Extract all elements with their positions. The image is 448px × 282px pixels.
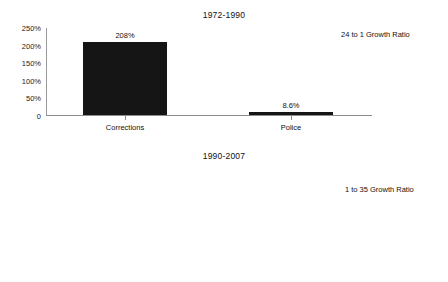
y-tick-label: 200% bbox=[22, 41, 41, 50]
y-tick-label: 0 bbox=[37, 112, 41, 121]
chart-1972-1990: 1972-1990 24 to 1 Growth Ratio 250% 200%… bbox=[0, 0, 448, 141]
bar-value-label: 8.6% bbox=[282, 101, 299, 110]
y-tick-label: 50% bbox=[26, 94, 41, 103]
bar-police bbox=[249, 112, 333, 115]
category-label-corrections: Corrections bbox=[106, 123, 144, 132]
growth-ratio-annotation: 1 to 35 Growth Ratio bbox=[345, 185, 414, 194]
category-tick bbox=[125, 116, 126, 120]
y-axis-line bbox=[46, 28, 47, 116]
x-axis-line bbox=[46, 115, 372, 116]
chart-title: 1990-2007 bbox=[0, 151, 448, 161]
chart-title: 1972-1990 bbox=[0, 10, 448, 20]
y-tick-label: 150% bbox=[22, 59, 41, 68]
bar-value-label: 208% bbox=[115, 31, 134, 40]
plot-area: 250% 200% 150% 100% 50% 0 208% Correctio… bbox=[46, 28, 372, 116]
category-label-police: Police bbox=[281, 123, 301, 132]
y-tick-label: 250% bbox=[22, 24, 41, 33]
bar-corrections bbox=[83, 42, 167, 115]
category-tick bbox=[291, 116, 292, 120]
chart-1990-2007: 1990-2007 1 to 35 Growth Ratio 100% 75% … bbox=[0, 141, 448, 282]
y-tick-label: 100% bbox=[22, 76, 41, 85]
